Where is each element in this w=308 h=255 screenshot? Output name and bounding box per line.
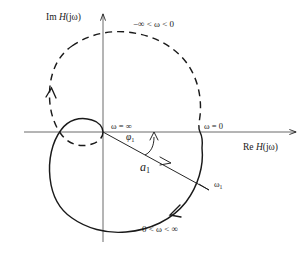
omega-one-tick <box>199 184 209 190</box>
real-axis-label: Re H(jω) <box>243 143 278 153</box>
omega-zero-label: ω = 0 <box>204 122 223 131</box>
imaginary-axis-label: Im H(jω) <box>46 13 81 23</box>
direction-arrow-dashed <box>46 88 56 98</box>
curve-negative-omega-arrow <box>51 88 52 108</box>
nyquist-plot-canvas <box>0 0 308 255</box>
magnitude-a1-label: a1 <box>140 161 150 175</box>
curve-negative-omega-outer <box>72 32 200 132</box>
nyquist-figure: Im H(jω) Re H(jω) −∞ < ω < 0 0 < ω < ∞ ω… <box>0 0 308 255</box>
vector-a1 <box>103 132 209 190</box>
direction-arrow-solid <box>170 205 181 217</box>
positive-omega-range-label: 0 < ω < ∞ <box>142 225 178 234</box>
curve-negative-omega <box>49 46 103 146</box>
axis-lines <box>24 14 296 242</box>
phi-angle-arc <box>145 137 154 155</box>
negative-omega-range-label: −∞ < ω < 0 <box>133 20 174 29</box>
phi-angle-label: φ1 <box>126 133 135 143</box>
omega-infinity-label: ω = ∞ <box>111 122 132 131</box>
omega-one-label: ω1 <box>214 180 223 190</box>
